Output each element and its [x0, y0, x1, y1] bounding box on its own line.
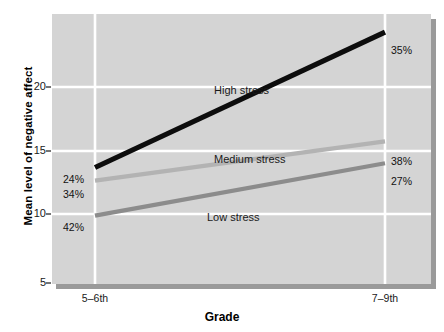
x-axis-title: Grade — [0, 310, 444, 324]
y-axis-spine — [46, 14, 51, 284]
y-tick-10: 10 — [6, 208, 46, 219]
chart-plot-area — [0, 0, 444, 332]
series-label-high-stress: High stress — [214, 84, 269, 96]
y-tick-20: 20 — [6, 81, 46, 92]
point-label-low-stress-left: 42% — [63, 221, 84, 233]
x-tick-7-9th: 7–9th — [372, 292, 398, 304]
point-label-high-stress-left: 24% — [63, 173, 84, 185]
series-label-medium-stress: Medium stress — [214, 153, 286, 165]
chart-figure: Mean level of negative affect 20 15 10 5… — [0, 0, 444, 332]
point-label-medium-stress-left: 34% — [63, 188, 84, 200]
y-tick-15: 15 — [6, 145, 46, 156]
point-label-medium-stress-right: 38% — [391, 155, 412, 167]
series-label-low-stress: Low stress — [207, 211, 260, 223]
point-label-high-stress-right: 35% — [391, 44, 412, 56]
x-tick-5-6th: 5–6th — [82, 292, 108, 304]
plot-background — [51, 14, 431, 284]
point-label-low-stress-right: 27% — [391, 175, 412, 187]
y-tick-5: 5 — [6, 277, 46, 288]
